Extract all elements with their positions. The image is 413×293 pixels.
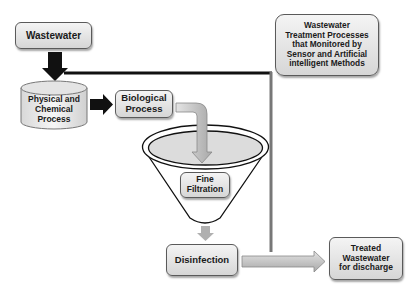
wastewater-label: Wastewater [26, 30, 81, 42]
biological-label: Biological Process [121, 93, 166, 115]
treated-wastewater-label: Treated Wastewater for discharge [339, 244, 393, 273]
biological-node: Biological Process [115, 90, 173, 118]
wastewater-node: Wastewater [15, 22, 92, 49]
disinfection-node: Disinfection [166, 244, 238, 276]
physical-chemical-node: Physical and Chemical Process [21, 93, 87, 127]
legend-label: Wastewater Treatment Processes that Moni… [285, 21, 368, 69]
fine-filtration-node: Fine Filtration [180, 172, 230, 198]
arrow-down-icon [42, 52, 68, 81]
arrow-right-gray-icon [242, 251, 325, 272]
arrow-down-small-icon [197, 226, 214, 241]
legend-box: Wastewater Treatment Processes that Moni… [275, 14, 379, 76]
arrow-right-icon [90, 94, 113, 115]
physical-chemical-label: Physical and Chemical Process [28, 95, 80, 124]
fine-filtration-label: Fine Filtration [187, 175, 223, 195]
treated-wastewater-node: Treated Wastewater for discharge [329, 237, 403, 280]
disinfection-label: Disinfection [175, 255, 229, 266]
